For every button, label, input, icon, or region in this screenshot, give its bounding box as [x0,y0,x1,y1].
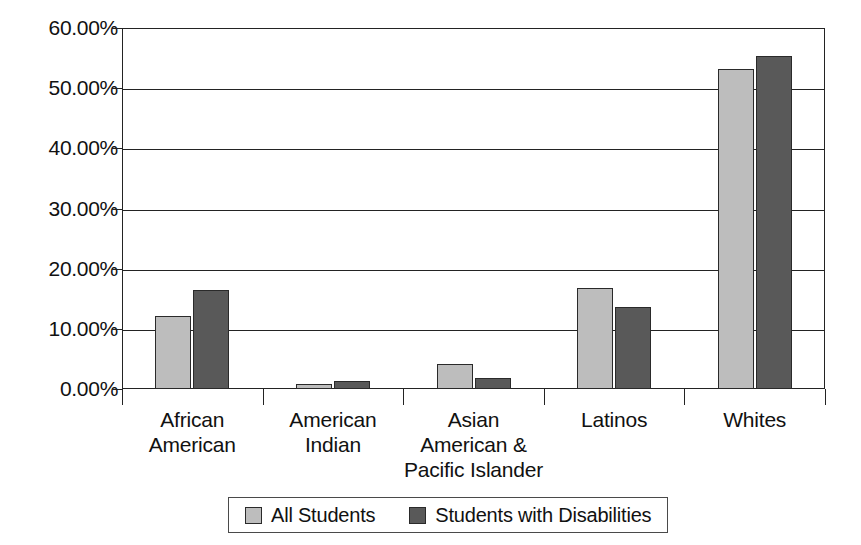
y-axis-tick-label: 40.00% [6,137,118,158]
x-axis: AfricanAmericanAmericanIndianAsianAmeric… [122,389,825,504]
legend-item: Students with Disabilities [409,505,651,525]
y-axis-tick-label: 60.00% [6,17,118,38]
x-axis-category-label: AmericanIndian [263,407,404,457]
y-axis-tick-mark [112,269,122,270]
plot-area [122,28,825,389]
gridline [123,210,824,211]
gridline [123,270,824,271]
x-axis-tick-mark [122,389,123,405]
x-axis-category-label: Latinos [544,407,685,432]
gridline [123,330,824,331]
y-axis-tick-label: 0.00% [6,378,118,399]
y-axis-tick-mark [112,329,122,330]
y-axis-tick-label: 10.00% [6,318,118,339]
y-axis-tick-label: 50.00% [6,77,118,98]
y-axis: 0.00%10.00%20.00%30.00%40.00%50.00%60.00… [0,28,118,389]
x-axis-category-label: AsianAmerican &Pacific Islander [403,407,544,482]
chart-legend: All StudentsStudents with Disabilities [228,497,668,533]
legend-swatch-icon [409,507,426,524]
legend-swatch-icon [245,507,262,524]
y-axis-tick-mark [112,209,122,210]
x-axis-tick-mark [684,389,685,405]
y-axis-tick-mark [112,88,122,89]
y-axis-tick-label: 30.00% [6,198,118,219]
legend-label: All Students [271,505,375,525]
y-axis-tick-mark [112,148,122,149]
x-axis-tick-mark [263,389,264,405]
gridline [123,149,824,150]
x-axis-category-label: Whites [684,407,825,432]
x-axis-tick-mark [825,389,826,405]
y-axis-tick-mark [112,28,122,29]
legend-item: All Students [245,505,375,525]
bar-chart: 0.00%10.00%20.00%30.00%40.00%50.00%60.00… [0,0,861,545]
gridline [123,89,824,90]
legend-label: Students with Disabilities [435,505,651,525]
x-axis-tick-mark [403,389,404,405]
y-axis-tick-mark [112,389,122,390]
x-axis-category-label: AfricanAmerican [122,407,263,457]
y-axis-tick-label: 20.00% [6,258,118,279]
x-axis-tick-mark [544,389,545,405]
